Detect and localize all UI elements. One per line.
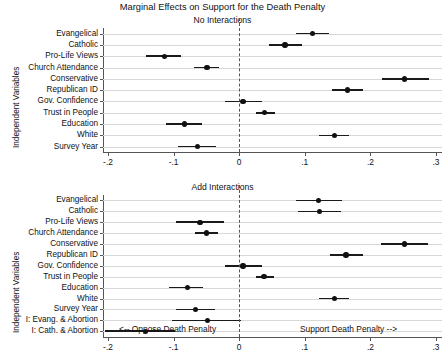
x-axis-line — [103, 337, 442, 338]
x-axis-tick-label: .1 — [285, 342, 325, 352]
x-axis-tick-label: .1 — [285, 157, 325, 167]
y-axis-category-label: Church Attendance — [28, 63, 98, 72]
y-axis-tick — [100, 45, 103, 46]
gridline — [103, 90, 442, 91]
gridline — [103, 34, 442, 35]
estimate-point-marker — [317, 209, 322, 214]
y-axis-tick — [100, 113, 103, 114]
x-axis-tick — [370, 153, 371, 156]
y-axis-tick — [100, 331, 103, 332]
y-axis-tick — [100, 255, 103, 256]
estimate-point-marker — [310, 31, 315, 36]
y-axis-tick — [100, 147, 103, 148]
estimate-point-marker — [345, 87, 350, 92]
y-axis-category-label: Pro-Life Views — [45, 217, 98, 226]
y-axis-category-label: Catholic — [68, 206, 98, 215]
estimate-point-marker — [332, 133, 337, 138]
zero-reference-line — [239, 185, 240, 337]
gridline — [103, 233, 442, 234]
x-axis-tick — [174, 153, 175, 156]
y-axis-category-label: Gov. Confidence — [38, 96, 98, 105]
panel-no-interactions: No Interactions EvangelicalCatholicPro-L… — [0, 13, 445, 165]
estimate-point-marker — [185, 285, 190, 290]
estimate-point-marker — [240, 263, 245, 268]
y-axis-tick — [100, 288, 103, 289]
panel-add-interactions: Add Interactions EvangelicalCatholicPro-… — [0, 180, 445, 343]
estimate-point-marker — [316, 198, 321, 203]
estimate-point-marker — [182, 121, 187, 126]
y-axis-category-label: Education — [62, 119, 98, 128]
gridline — [103, 309, 442, 310]
gridline — [103, 222, 442, 223]
y-axis-tick — [100, 200, 103, 201]
gridline — [103, 299, 442, 300]
y-axis-category-label: Education — [62, 283, 98, 292]
y-axis-tick — [100, 320, 103, 321]
y-axis-tick — [100, 79, 103, 80]
estimate-point-marker — [205, 318, 210, 323]
y-axis-category-label: Evangelical — [56, 195, 98, 204]
y-axis-category-label: Survey Year — [54, 304, 98, 313]
y-axis-tick — [100, 68, 103, 69]
x-axis-tick — [239, 338, 240, 341]
y-axis-category-label: Church Attendance — [28, 228, 98, 237]
y-axis-tick — [100, 309, 103, 310]
y-axis-category-label: Survey Year — [54, 142, 98, 151]
x-axis-tick — [174, 338, 175, 341]
x-axis-tick-label: 0 — [219, 342, 259, 352]
x-axis-tick — [108, 153, 109, 156]
y-axis-tick — [100, 56, 103, 57]
y-axis-tick — [100, 211, 103, 212]
panel-top-subtitle: No Interactions — [0, 15, 445, 25]
x-axis-tick — [239, 153, 240, 156]
y-axis-category-label: Conservative — [50, 74, 98, 83]
y-axis-category-label: Trust in People — [43, 108, 98, 117]
y-axis-tick — [100, 222, 103, 223]
x-axis-tick-label: -.2 — [88, 157, 128, 167]
estimate-point-marker — [332, 296, 337, 301]
y-axis-tick — [100, 101, 103, 102]
gridline — [103, 68, 442, 69]
y-axis-tick — [100, 299, 103, 300]
y-axis-category-label: I: Cath. & Abortion — [32, 326, 98, 335]
y-axis-tick — [100, 277, 103, 278]
gridline — [103, 101, 442, 102]
y-axis-category-label: Evangelical — [56, 29, 98, 38]
x-axis-tick-label: .2 — [350, 342, 390, 352]
x-axis-line — [103, 152, 442, 153]
y-axis-category-label: White — [77, 130, 98, 139]
estimate-point-marker — [262, 110, 267, 115]
y-axis-category-label: Conservative — [50, 239, 98, 248]
y-axis-category-label: I: Evang. & Abortion — [26, 315, 98, 324]
figure-title: Marginal Effects on Support for the Deat… — [0, 2, 445, 12]
x-axis-tick-label: .2 — [350, 157, 390, 167]
y-axis-title: Independent Variables — [12, 67, 21, 148]
estimate-point-marker — [162, 54, 167, 59]
footnote-support: Support Death Penalty --> — [300, 324, 397, 334]
y-axis-category-label: Trust in People — [43, 272, 98, 281]
y-axis-tick — [100, 244, 103, 245]
x-axis-tick — [370, 338, 371, 341]
y-axis-tick — [100, 135, 103, 136]
gridline — [103, 288, 442, 289]
y-axis-category-label: Republican ID — [47, 85, 98, 94]
estimate-point-marker — [402, 76, 407, 81]
gridline — [103, 147, 442, 148]
y-axis-tick — [100, 233, 103, 234]
x-axis-tick — [305, 338, 306, 341]
estimate-point-marker — [343, 252, 348, 257]
x-axis-tick-label: -.1 — [154, 157, 194, 167]
estimate-point-marker — [197, 220, 202, 225]
estimate-point-marker — [240, 99, 245, 104]
estimate-point-marker — [282, 42, 287, 47]
y-axis-tick — [100, 34, 103, 35]
panel-bottom-subtitle: Add Interactions — [0, 182, 445, 192]
x-axis-tick — [436, 153, 437, 156]
y-axis-category-label: White — [77, 294, 98, 303]
x-axis-tick — [305, 153, 306, 156]
x-axis-tick-label: .3 — [416, 157, 445, 167]
y-axis-tick — [100, 90, 103, 91]
gridline — [103, 211, 442, 212]
footnote-oppose: <-- Oppose Death Penalty — [119, 324, 216, 334]
estimate-point-marker — [402, 241, 407, 246]
